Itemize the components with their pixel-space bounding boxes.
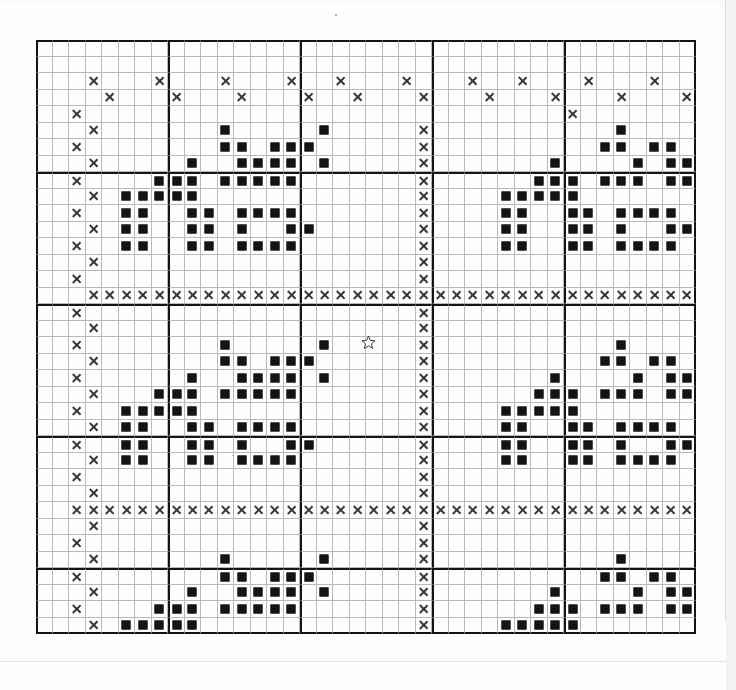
grid-cell[interactable] <box>69 387 86 404</box>
grid-cell[interactable] <box>267 354 284 371</box>
grid-cell[interactable] <box>234 238 251 255</box>
grid-cell[interactable] <box>119 238 136 255</box>
grid-cell[interactable] <box>218 222 235 239</box>
grid-cell[interactable] <box>432 535 449 552</box>
grid-cell[interactable] <box>548 469 565 486</box>
grid-cell[interactable] <box>465 205 482 222</box>
grid-cell[interactable] <box>515 370 532 387</box>
grid-cell[interactable] <box>135 271 152 288</box>
grid-cell[interactable] <box>597 519 614 536</box>
grid-cell[interactable] <box>564 189 581 206</box>
grid-cell[interactable] <box>647 601 664 618</box>
grid-cell[interactable] <box>168 222 185 239</box>
grid-cell[interactable] <box>680 601 697 618</box>
grid-cell[interactable] <box>630 73 647 90</box>
grid-cell[interactable] <box>581 552 598 569</box>
grid-cell[interactable] <box>498 73 515 90</box>
grid-cell[interactable] <box>647 288 664 305</box>
grid-cell[interactable] <box>350 255 367 272</box>
grid-cell[interactable] <box>614 304 631 321</box>
grid-cell[interactable] <box>284 354 301 371</box>
grid-cell[interactable] <box>53 618 70 635</box>
grid-cell[interactable] <box>284 255 301 272</box>
grid-cell[interactable] <box>267 205 284 222</box>
grid-cell[interactable] <box>135 255 152 272</box>
grid-cell[interactable] <box>581 73 598 90</box>
grid-cell[interactable] <box>647 618 664 635</box>
grid-cell[interactable] <box>614 436 631 453</box>
grid-cell[interactable] <box>531 552 548 569</box>
grid-cell[interactable] <box>284 40 301 57</box>
grid-cell[interactable] <box>36 354 53 371</box>
grid-cell[interactable] <box>300 123 317 140</box>
grid-cell[interactable] <box>449 552 466 569</box>
grid-cell[interactable] <box>663 304 680 321</box>
grid-cell[interactable] <box>300 502 317 519</box>
grid-cell[interactable] <box>152 486 169 503</box>
grid-cell[interactable] <box>168 255 185 272</box>
grid-cell[interactable] <box>36 288 53 305</box>
grid-cell[interactable] <box>383 337 400 354</box>
grid-cell[interactable] <box>597 469 614 486</box>
grid-cell[interactable] <box>482 403 499 420</box>
grid-cell[interactable] <box>383 618 400 635</box>
grid-cell[interactable] <box>86 568 103 585</box>
grid-cell[interactable] <box>399 453 416 470</box>
grid-cell[interactable] <box>465 156 482 173</box>
grid-cell[interactable] <box>399 189 416 206</box>
grid-cell[interactable] <box>531 106 548 123</box>
grid-cell[interactable] <box>168 139 185 156</box>
grid-cell[interactable] <box>597 337 614 354</box>
grid-cell[interactable] <box>86 403 103 420</box>
grid-cell[interactable] <box>234 123 251 140</box>
grid-cell[interactable] <box>119 189 136 206</box>
grid-cell[interactable] <box>300 90 317 107</box>
grid-cell[interactable] <box>465 552 482 569</box>
grid-cell[interactable] <box>416 370 433 387</box>
grid-cell[interactable] <box>185 354 202 371</box>
grid-cell[interactable] <box>234 90 251 107</box>
grid-cell[interactable] <box>53 601 70 618</box>
grid-cell[interactable] <box>647 255 664 272</box>
grid-cell[interactable] <box>152 354 169 371</box>
grid-cell[interactable] <box>333 40 350 57</box>
grid-cell[interactable] <box>168 453 185 470</box>
grid-cell[interactable] <box>663 337 680 354</box>
grid-cell[interactable] <box>333 156 350 173</box>
grid-cell[interactable] <box>317 238 334 255</box>
grid-cell[interactable] <box>201 403 218 420</box>
grid-cell[interactable] <box>53 370 70 387</box>
grid-cell[interactable] <box>366 601 383 618</box>
grid-cell[interactable] <box>119 321 136 338</box>
grid-cell[interactable] <box>498 420 515 437</box>
grid-cell[interactable] <box>647 552 664 569</box>
grid-cell[interactable] <box>581 189 598 206</box>
grid-cell[interactable] <box>399 288 416 305</box>
grid-cell[interactable] <box>597 238 614 255</box>
grid-cell[interactable] <box>300 420 317 437</box>
grid-cell[interactable] <box>482 189 499 206</box>
grid-cell[interactable] <box>416 321 433 338</box>
grid-cell[interactable] <box>119 57 136 74</box>
grid-cell[interactable] <box>201 304 218 321</box>
grid-cell[interactable] <box>36 189 53 206</box>
grid-cell[interactable] <box>333 304 350 321</box>
grid-cell[interactable] <box>36 321 53 338</box>
grid-cell[interactable] <box>234 106 251 123</box>
grid-cell[interactable] <box>317 453 334 470</box>
grid-cell[interactable] <box>168 106 185 123</box>
grid-cell[interactable] <box>251 337 268 354</box>
grid-cell[interactable] <box>630 189 647 206</box>
grid-cell[interactable] <box>614 601 631 618</box>
grid-cell[interactable] <box>333 601 350 618</box>
grid-cell[interactable] <box>185 568 202 585</box>
grid-cell[interactable] <box>597 189 614 206</box>
grid-cell[interactable] <box>597 436 614 453</box>
grid-cell[interactable] <box>482 73 499 90</box>
grid-cell[interactable] <box>564 568 581 585</box>
grid-cell[interactable] <box>663 370 680 387</box>
grid-cell[interactable] <box>482 420 499 437</box>
grid-cell[interactable] <box>548 535 565 552</box>
grid-cell[interactable] <box>119 601 136 618</box>
grid-cell[interactable] <box>168 618 185 635</box>
